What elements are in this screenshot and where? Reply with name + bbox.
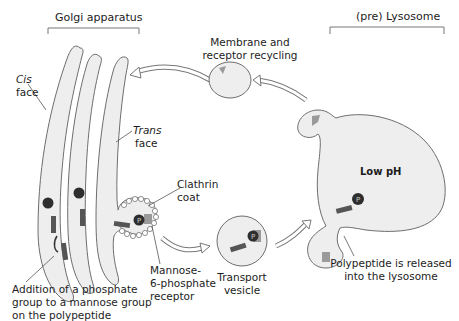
trans-face-label-2: face <box>135 137 157 150</box>
m6p-receptor-label-1: Mannose- <box>150 264 201 277</box>
trans-face-label-1: Trans <box>133 124 161 137</box>
cis-face-label-1: Cis <box>16 73 32 86</box>
clathrin-label-1: Clathrin <box>177 178 218 191</box>
leader-clathrin <box>148 188 180 206</box>
addition-label-2: group to a mannose group <box>12 296 152 309</box>
lysosome-title: (pre) Lysosome <box>356 11 440 24</box>
transport-vesicle-label-1: Transport <box>214 271 270 284</box>
membrane-recycling-label-1: Membrane and <box>205 36 295 49</box>
clathrin-label-2: coat <box>177 191 200 204</box>
released-label-2: into the lysosome <box>326 270 456 283</box>
transport-vesicle-label-2: vesicle <box>214 284 270 297</box>
golgi-lysosome-diagram: P <box>0 0 459 321</box>
membrane-recycling-label-2: receptor recycling <box>193 49 307 62</box>
svg-text:P: P <box>137 217 141 225</box>
svg-text:P: P <box>251 233 255 241</box>
golgi-apparatus-title: Golgi apparatus <box>55 12 143 25</box>
cis-face-label-2: face <box>16 86 38 99</box>
released-label-1: Polypeptide is released <box>326 257 456 270</box>
lysosome-bracket <box>330 27 444 34</box>
addition-label-1: Addition of a phosphate <box>12 283 137 296</box>
leader-m6p <box>152 226 160 264</box>
leader-released <box>344 236 354 256</box>
clathrin-coated-bud: P <box>114 196 159 238</box>
m6p-receptor-label-3: receptor <box>150 290 194 303</box>
low-ph-label: Low pH <box>360 166 402 179</box>
svg-text:P: P <box>356 196 360 204</box>
golgi-bracket <box>48 28 139 34</box>
recycling-vesicle <box>209 62 251 98</box>
golgi-cisterna-trans <box>96 57 128 285</box>
m6p-receptor-label-2: 6-phosphate <box>150 277 216 290</box>
lysosome: P <box>298 110 445 268</box>
arrow-recycle-to-vesicle <box>258 80 306 100</box>
transport-vesicle: P <box>217 216 267 266</box>
addition-label-3: on the polypeptide <box>12 309 111 321</box>
